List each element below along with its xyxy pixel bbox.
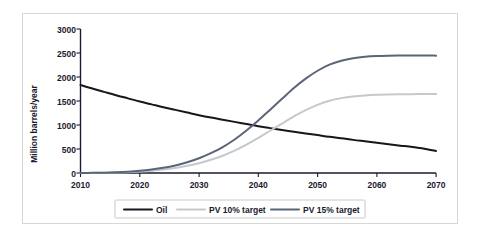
x-tick-label: 2030 <box>190 180 209 190</box>
line-chart-svg: Million barrels/year 3000 2500 2000 1500… <box>23 14 457 223</box>
y-tick-label: 0 <box>71 169 76 179</box>
y-tick-label: 3000 <box>57 25 76 35</box>
x-tick-label: 2070 <box>427 180 446 190</box>
chart-frame: Million barrels/year 3000 2500 2000 1500… <box>22 13 458 224</box>
y-tick-label: 2000 <box>57 73 76 83</box>
legend-label-pv15: PV 15% target <box>303 205 360 215</box>
y-tick-label: 500 <box>62 145 76 155</box>
series-line-pv-15-target <box>81 55 437 173</box>
x-axis-tick-labels: 2010 2020 2030 2040 2050 2060 2070 <box>71 180 446 190</box>
y-axis-tick-labels: 3000 2500 2000 1500 1000 500 0 <box>57 25 76 179</box>
x-tick-label: 2010 <box>71 180 90 190</box>
y-tick-label: 1500 <box>57 97 76 107</box>
series-line-pv-10-target <box>81 94 437 173</box>
legend-label-oil: Oil <box>156 205 167 215</box>
x-tick-label: 2060 <box>367 180 386 190</box>
x-tick-label: 2020 <box>130 180 149 190</box>
y-tick-label: 2500 <box>57 49 76 59</box>
series-group <box>81 55 437 173</box>
x-tick-label: 2050 <box>308 180 327 190</box>
chart-figure: Million barrels/year 3000 2500 2000 1500… <box>0 0 481 239</box>
y-tick-label: 1000 <box>57 121 76 131</box>
legend-label-pv10: PV 10% target <box>209 205 266 215</box>
x-tick-label: 2040 <box>249 180 268 190</box>
chart-legend: Oil PV 10% target PV 15% target <box>115 200 365 218</box>
y-axis-title: Million barrels/year <box>29 85 39 163</box>
